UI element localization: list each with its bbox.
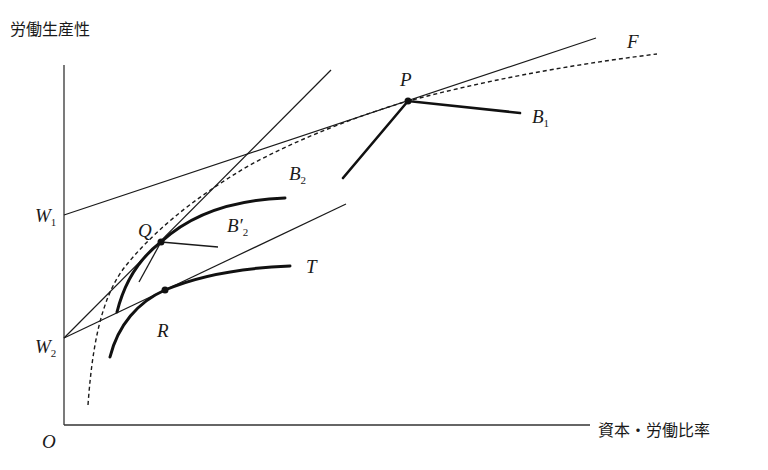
point-q-label: Q bbox=[138, 220, 152, 241]
w2-label: W2 bbox=[35, 336, 56, 359]
frontier-curve-f bbox=[88, 54, 657, 405]
productivity-capital-ratio-diagram: 労働生産性 資本・労働比率 O W1 W2 P Q R F B1 B2 B′2 … bbox=[0, 0, 768, 470]
isoquant-b1 bbox=[343, 101, 520, 178]
curve-f-label: F bbox=[626, 31, 639, 52]
wage-line-w2-shallow bbox=[64, 204, 346, 338]
point-p-marker bbox=[405, 98, 412, 105]
origin-label: O bbox=[42, 431, 56, 452]
isoquant-b2-prime bbox=[117, 198, 285, 312]
w1-label: W1 bbox=[35, 205, 56, 228]
wage-line-w1 bbox=[64, 38, 596, 215]
q-tangent-segment bbox=[161, 242, 218, 247]
point-r-label: R bbox=[156, 320, 169, 341]
curve-t bbox=[110, 266, 290, 357]
curve-t-label: T bbox=[306, 256, 318, 277]
wage-line-w2-steep bbox=[64, 70, 331, 338]
curve-b2-prime-label: B′2 bbox=[227, 215, 248, 238]
point-q-marker bbox=[158, 239, 165, 246]
x-axis-title: 資本・労働比率 bbox=[598, 421, 710, 440]
curve-b1-label: B1 bbox=[532, 106, 549, 129]
point-r-marker bbox=[162, 287, 169, 294]
curve-b2-label: B2 bbox=[289, 163, 306, 186]
point-p-label: P bbox=[399, 69, 412, 90]
y-axis-title: 労働生産性 bbox=[10, 20, 90, 39]
